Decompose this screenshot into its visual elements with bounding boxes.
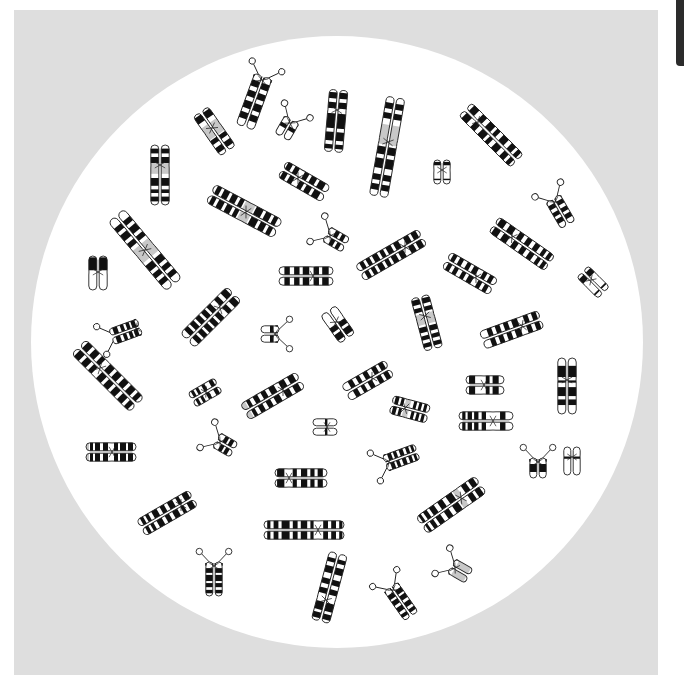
dark-band <box>160 189 170 193</box>
dark-band <box>318 468 323 478</box>
dark-band <box>294 276 299 286</box>
dark-band <box>293 478 297 488</box>
dark-band <box>301 530 307 540</box>
dark-band <box>150 149 160 154</box>
dark-band <box>90 442 93 452</box>
dark-band <box>493 385 499 395</box>
satellite <box>520 444 526 450</box>
dark-band <box>294 266 299 276</box>
dark-band <box>267 520 270 530</box>
satellite <box>286 346 292 352</box>
dark-band <box>567 399 577 405</box>
dark-band <box>293 520 298 530</box>
dark-band <box>331 520 336 530</box>
dark-band <box>150 197 160 202</box>
dark-band <box>500 411 505 421</box>
dark-band <box>150 189 160 193</box>
dark-band <box>267 530 270 540</box>
dark-band <box>557 387 567 396</box>
dark-band <box>482 411 486 421</box>
dark-band <box>469 375 475 385</box>
dark-band <box>462 411 465 421</box>
dark-band <box>468 411 472 421</box>
dark-band <box>331 530 336 540</box>
dark-band <box>482 421 486 431</box>
dark-band <box>303 266 309 276</box>
dark-band <box>103 442 108 452</box>
dark-band <box>128 452 133 462</box>
dark-band <box>323 530 328 540</box>
dark-band <box>322 276 328 286</box>
dark-band <box>160 197 170 202</box>
dark-band <box>95 452 100 462</box>
dark-band <box>274 530 279 540</box>
dark-band <box>557 366 567 377</box>
dark-band <box>274 520 279 530</box>
dark-band <box>160 178 170 186</box>
dark-band <box>468 421 472 431</box>
dark-band <box>567 366 577 377</box>
dark-band <box>293 530 298 540</box>
dark-band <box>323 520 328 530</box>
dark-band <box>500 421 505 431</box>
dark-band <box>128 442 133 452</box>
dark-band <box>282 520 290 530</box>
dark-band <box>150 178 160 186</box>
dark-band <box>310 520 313 530</box>
dark-band <box>160 149 170 154</box>
dark-band <box>90 452 93 462</box>
dark-band <box>474 421 478 431</box>
dark-band <box>284 276 289 286</box>
satellite <box>550 444 556 450</box>
dark-band <box>557 399 567 405</box>
dark-band <box>322 266 328 276</box>
dark-band <box>310 530 313 540</box>
satellite <box>286 316 292 322</box>
dark-band <box>282 530 290 540</box>
dark-band <box>567 387 577 396</box>
satellite <box>226 548 232 554</box>
dark-band <box>301 478 307 488</box>
dark-band <box>301 468 307 478</box>
dark-band <box>103 452 108 462</box>
satellite <box>196 548 202 554</box>
dark-band <box>462 421 465 431</box>
dark-band <box>293 468 297 478</box>
dark-band <box>474 411 478 421</box>
dark-band <box>469 385 475 395</box>
dark-band <box>310 478 314 488</box>
dark-band <box>120 452 126 462</box>
dark-band <box>301 520 307 530</box>
dark-band <box>284 266 289 276</box>
dark-band <box>493 375 499 385</box>
dark-band <box>310 468 314 478</box>
dark-band <box>120 442 126 452</box>
dark-band <box>95 442 100 452</box>
dark-band <box>318 478 323 488</box>
dark-band <box>303 276 309 286</box>
